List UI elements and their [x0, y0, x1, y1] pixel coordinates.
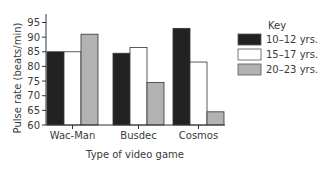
bar-busdec-series-0 [113, 53, 130, 125]
y-tick-label: 95 [27, 17, 40, 28]
y-axis-title-group: Pulse rate (beats/min) [12, 23, 23, 134]
y-axis-ticks: 6065707580859095 [27, 17, 46, 131]
legend-item-2: 20–23 yrs. [238, 64, 318, 75]
legend-label: 20–23 yrs. [266, 64, 318, 75]
x-tick-label: Wac-Man [50, 130, 96, 141]
legend-swatch [238, 34, 261, 45]
legend: Key 10–12 yrs.15–17 yrs.20–23 yrs. [238, 20, 318, 75]
y-tick-label: 60 [27, 120, 40, 131]
y-tick-label: 75 [27, 76, 40, 87]
bar-wac-man-series-1 [64, 52, 81, 125]
grouped-bar-chart: Pulse rate (beats/min) 6065707580859095 … [0, 0, 322, 169]
bar-group-cosmos [173, 28, 224, 125]
y-axis-title: Pulse rate (beats/min) [12, 23, 23, 134]
x-tick-label: Busdec [120, 130, 156, 141]
legend-title: Key [268, 20, 286, 31]
y-tick-label: 70 [27, 90, 40, 101]
x-axis-ticks: Wac-ManBusdecCosmos [50, 125, 218, 141]
bar-group-wac-man [47, 34, 98, 125]
bar-wac-man-series-0 [47, 52, 64, 125]
bar-cosmos-series-0 [173, 28, 190, 125]
y-tick-label: 65 [27, 105, 40, 116]
x-tick-label: Cosmos [179, 130, 218, 141]
x-axis-title: Type of video game [85, 149, 184, 160]
y-tick-label: 85 [27, 46, 40, 57]
legend-swatch [238, 64, 261, 75]
bar-cosmos-series-2 [207, 112, 224, 125]
legend-item-1: 15–17 yrs. [238, 49, 318, 60]
chart-canvas: Pulse rate (beats/min) 6065707580859095 … [0, 0, 322, 169]
bar-busdec-series-2 [147, 83, 164, 125]
legend-label: 10–12 yrs. [266, 34, 318, 45]
bar-cosmos-series-1 [190, 62, 207, 125]
bars [47, 28, 224, 125]
bar-busdec-series-1 [130, 47, 147, 125]
legend-item-0: 10–12 yrs. [238, 34, 318, 45]
y-tick-label: 80 [27, 61, 40, 72]
y-tick-label: 90 [27, 32, 40, 43]
legend-swatch [238, 49, 261, 60]
bar-group-busdec [113, 47, 164, 125]
bar-wac-man-series-2 [81, 34, 98, 125]
legend-label: 15–17 yrs. [266, 49, 318, 60]
